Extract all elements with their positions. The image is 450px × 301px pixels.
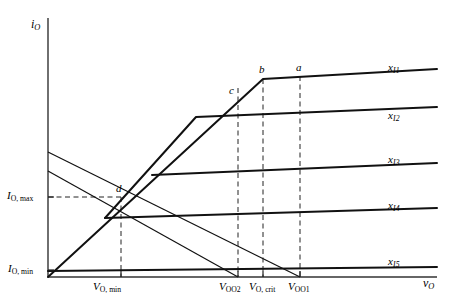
x-tick-label-vo-crit: VO, crit — [249, 281, 275, 294]
x-tick-label-voo1: VOO1 — [288, 281, 310, 294]
curve-label-x-i4: xI4 — [388, 200, 400, 213]
x-axis-label: vO — [423, 277, 435, 292]
y-axis-label: iO — [31, 18, 41, 33]
curves-group — [48, 69, 437, 277]
x-tick-label-voo2: VOO2 — [219, 281, 241, 294]
y-tick-marks — [48, 197, 54, 270]
curve-x-i5 — [48, 267, 437, 271]
axes-group — [48, 18, 437, 277]
curve-x-i1 — [48, 69, 437, 277]
load-line-2 — [48, 171, 238, 277]
curve-label-x-i3: xI3 — [388, 154, 400, 167]
curve-label-x-i1: xI1 — [388, 62, 400, 75]
y-tick-label-io-min: IO, min — [8, 263, 33, 276]
point-label-a: a — [296, 62, 302, 73]
x-tick-label-vo-min: VO, min — [93, 281, 121, 294]
point-label-b: b — [259, 64, 265, 75]
point-label-c: c — [229, 85, 234, 96]
load-line-diagram: iO vO IO, max IO, min VO, min VOO2 VO, c… — [0, 0, 450, 301]
point-label-d: d — [116, 183, 122, 194]
x-tick-marks — [121, 271, 300, 277]
dashed-construction-lines — [48, 76, 300, 277]
y-tick-label-io-max: IO, max — [7, 190, 33, 203]
curve-label-x-i2: xI2 — [388, 110, 400, 123]
curve-label-x-i5: xI5 — [388, 256, 400, 269]
diagram-canvas — [0, 0, 450, 301]
